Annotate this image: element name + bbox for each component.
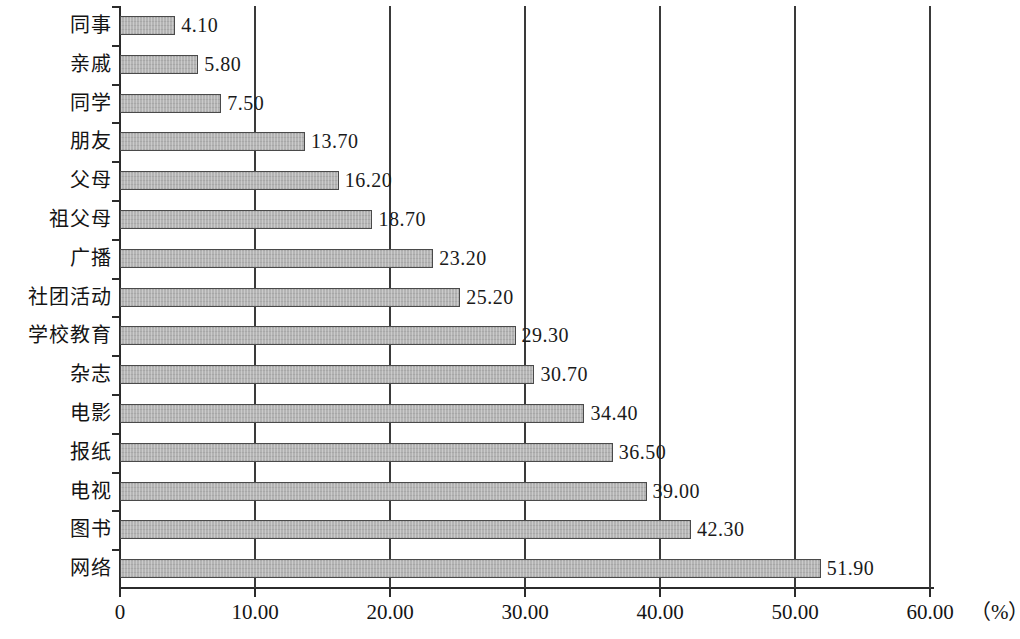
bar [120,520,691,539]
category-label: 亲戚 [0,53,112,75]
bar-row: 42.30 [120,510,933,549]
category-label: 同学 [0,92,112,114]
bar [120,171,339,190]
y-tick [112,510,119,512]
bar-value-label: 29.30 [522,324,570,346]
bar-row: 23.20 [120,239,933,278]
category-label: 电影 [0,402,112,424]
x-tick-0 [119,588,121,597]
y-tick [112,200,119,202]
bar [120,94,221,113]
x-tick-label: 10.00 [231,600,278,624]
x-tick-label: 20.00 [366,600,413,624]
bar-value-label: 39.00 [653,480,701,502]
x-tick-label: 50.00 [771,600,818,624]
bar-row: 39.00 [120,472,933,511]
category-label: 广播 [0,247,112,269]
x-tick-20.00 [389,588,391,597]
bar-row: 30.70 [120,355,933,394]
y-tick [112,239,119,241]
bar [120,288,460,307]
bar-value-label: 18.70 [378,208,426,230]
bar-value-label: 13.70 [311,130,359,152]
category-label: 朋友 [0,130,112,152]
bar [120,326,516,345]
x-tick-50.00 [794,588,796,597]
bar-value-label: 25.20 [466,286,514,308]
bar-row: 18.70 [120,200,933,239]
bar-row: 51.90 [120,549,933,588]
bar [120,210,372,229]
y-tick [112,433,119,435]
bar [120,249,433,268]
y-tick [112,472,119,474]
bar-row: 25.20 [120,278,933,317]
bar-value-label: 7.50 [227,92,264,114]
bar-value-label: 51.90 [827,557,875,579]
x-tick-label: 60.00 [906,600,953,624]
y-tick [112,122,119,124]
bar [120,132,305,151]
y-tick [112,549,119,551]
category-label: 父母 [0,169,112,191]
x-tick-30.00 [524,588,526,597]
category-label: 电视 [0,480,112,502]
x-tick-60.00 [929,588,931,597]
category-label: 同事 [0,14,112,36]
category-label: 图书 [0,518,112,540]
bar [120,482,647,501]
bar-row: 13.70 [120,122,933,161]
bar-value-label: 36.50 [619,441,667,463]
bar [120,16,175,35]
category-axis-labels: 同事亲戚同学朋友父母祖父母广播社团活动学校教育杂志电影报纸电视图书网络 [0,6,112,588]
category-label: 学校教育 [0,324,112,346]
y-tick [112,161,119,163]
y-tick [112,278,119,280]
bar-value-label: 30.70 [540,363,588,385]
y-tick [112,45,119,47]
bar [120,404,584,423]
x-tick-label: 40.00 [636,600,683,624]
category-label: 祖父母 [0,208,112,230]
category-label: 杂志 [0,363,112,385]
bar-value-label: 16.20 [345,169,393,191]
y-tick [112,6,119,8]
bar-row: 36.50 [120,433,933,472]
bar [120,443,613,462]
bar [120,559,821,578]
bar-row: 29.30 [120,316,933,355]
x-axis-unit-label: （%） [970,600,1020,624]
bar-row: 4.10 [120,6,933,45]
x-tick-40.00 [659,588,661,597]
category-label: 报纸 [0,441,112,463]
category-label: 网络 [0,557,112,579]
x-tick-label: 0 [115,600,126,624]
x-tick-label: 30.00 [501,600,548,624]
bar-row: 34.40 [120,394,933,433]
bar [120,55,198,74]
bar-row: 5.80 [120,45,933,84]
plot-area: 4.105.807.5013.7016.2018.7023.2025.2029.… [120,6,933,588]
y-tick [112,84,119,86]
bar-value-label: 4.10 [181,14,218,36]
bar [120,365,534,384]
y-tick [112,394,119,396]
bar-value-label: 34.40 [590,402,638,424]
bar-value-label: 5.80 [204,53,241,75]
y-tick [112,355,119,357]
x-tick-10.00 [254,588,256,597]
y-tick [112,316,119,318]
bar-row: 7.50 [120,84,933,123]
bar-row: 16.20 [120,161,933,200]
bar-value-label: 23.20 [439,247,487,269]
category-label: 社团活动 [0,286,112,308]
bar-value-label: 42.30 [697,518,745,540]
